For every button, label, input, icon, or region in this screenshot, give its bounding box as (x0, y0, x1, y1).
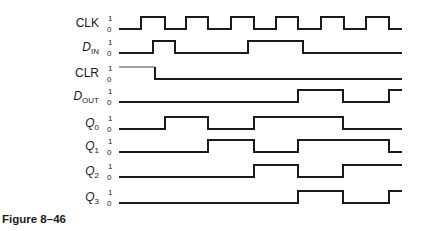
signal-row-clr: CLR10 (75, 64, 402, 84)
signal-label-q1: Q1 (85, 139, 99, 155)
level-high-label: 1 (108, 162, 113, 171)
level-high-label: 1 (108, 137, 113, 146)
signal-row-din: DIN10 (82, 38, 402, 58)
signal-label-dout: DOUT (73, 89, 99, 105)
timing-diagram: CLK10DIN10CLR10DOUT10Q010Q110Q210Q310 (0, 0, 421, 231)
signal-label-q2: Q2 (85, 164, 99, 180)
figure-caption: Figure 8–46 (2, 213, 66, 225)
signal-row-q2: Q210 (85, 162, 402, 182)
signal-label-q0: Q0 (85, 116, 99, 132)
level-low-label: 0 (107, 173, 112, 182)
signal-rows: CLK10DIN10CLR10DOUT10Q010Q110Q210Q310 (73, 14, 402, 208)
signal-label-q3: Q3 (85, 190, 99, 206)
level-high-label: 1 (108, 188, 113, 197)
level-low-label: 0 (107, 98, 112, 107)
level-low-label: 0 (107, 75, 112, 84)
level-low-label: 0 (107, 25, 112, 34)
level-low-label: 0 (107, 49, 112, 58)
waveform-q0 (119, 117, 402, 129)
waveform-q2 (119, 165, 402, 177)
signal-row-q0: Q010 (85, 114, 402, 134)
signal-row-dout: DOUT10 (73, 87, 402, 107)
signal-label-clr: CLR (75, 66, 99, 80)
level-high-label: 1 (108, 87, 113, 96)
signal-row-q3: Q310 (85, 188, 402, 208)
level-low-label: 0 (107, 199, 112, 208)
waveform-q3 (119, 191, 402, 203)
level-high-label: 1 (108, 114, 113, 123)
waveform-clr (155, 67, 402, 79)
level-low-label: 0 (107, 148, 112, 157)
level-low-label: 0 (107, 125, 112, 134)
waveform-clk (119, 17, 402, 29)
signal-row-clk: CLK10 (76, 14, 402, 34)
level-high-label: 1 (108, 38, 113, 47)
signal-label-clk: CLK (76, 16, 99, 30)
signal-row-q1: Q110 (85, 137, 402, 157)
level-high-label: 1 (108, 14, 113, 23)
signal-label-din: DIN (82, 40, 99, 56)
waveform-dout (119, 90, 402, 102)
waveform-din (119, 41, 402, 53)
waveform-q1 (119, 140, 402, 152)
level-high-label: 1 (108, 64, 113, 73)
